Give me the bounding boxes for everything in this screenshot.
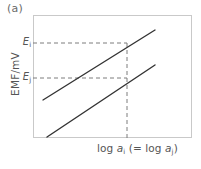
y-tick-label-upper: Ei bbox=[13, 36, 31, 49]
figure-panel: (a) EMF/mV Ei Ej log ai (= log aj) bbox=[0, 0, 201, 169]
upper-calibration-line bbox=[43, 30, 155, 100]
x-axis-title: log ai (= log aj) bbox=[97, 142, 178, 157]
x-axis-variable-2: a bbox=[165, 142, 172, 154]
x-axis-log-prefix-1: log bbox=[97, 142, 117, 154]
x-axis-equality-prefix: (= log bbox=[125, 142, 165, 154]
x-axis-close-paren: ) bbox=[174, 142, 178, 154]
x-axis-subscript-2: j bbox=[172, 148, 174, 156]
y-tick-label-lower: Ej bbox=[13, 71, 31, 84]
y-tick-upper-subscript: i bbox=[29, 41, 31, 49]
lower-calibration-line bbox=[47, 65, 155, 137]
y-tick-lower-subscript: j bbox=[29, 76, 31, 84]
